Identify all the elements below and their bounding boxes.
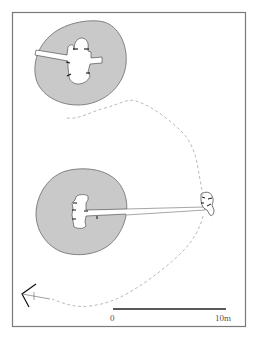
scale-start-label: 0 (110, 313, 115, 323)
scale-end-label: 10m (215, 313, 231, 323)
site-plan: 0 10m (0, 0, 258, 339)
